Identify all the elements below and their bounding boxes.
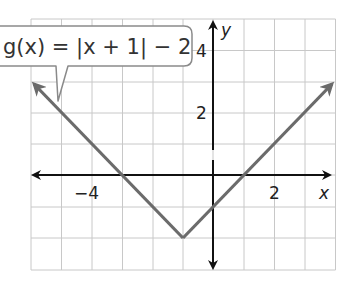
x-tick-label-neg4: −4 — [74, 183, 99, 203]
graph-figure: −4 2 x 4 2 y g(x) = |x + 1| − 2 — [0, 0, 345, 289]
x-tick-label-2: 2 — [269, 183, 280, 203]
y-axis-label: y — [220, 20, 232, 40]
x-axis-label: x — [318, 183, 330, 203]
y-tick-label-2: 2 — [196, 103, 207, 123]
function-callout: g(x) = |x + 1| − 2 — [0, 26, 192, 101]
callout-label: g(x) = |x + 1| − 2 — [3, 35, 191, 60]
y-tick-label-4: 4 — [196, 41, 207, 61]
coordinate-plane: −4 2 x 4 2 y g(x) = |x + 1| − 2 — [0, 0, 345, 289]
